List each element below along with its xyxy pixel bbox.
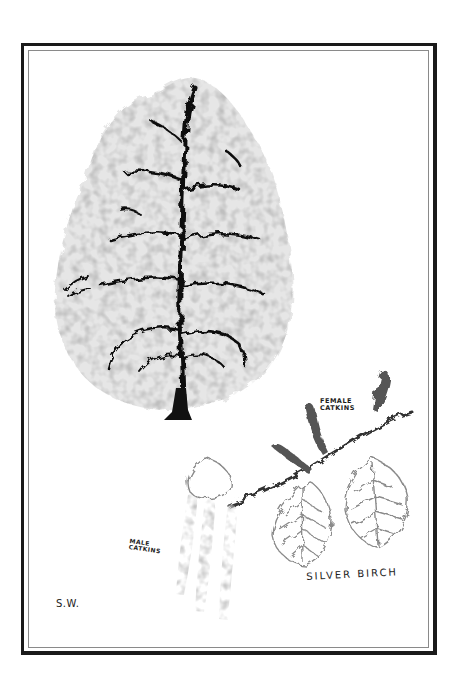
male-catkins <box>176 494 237 620</box>
tree-crown-shading <box>55 78 293 410</box>
birch-illustration <box>0 0 467 687</box>
female-catkins-label: FEMALE CATKINS <box>320 398 355 411</box>
artist-signature: S.W. <box>56 599 79 609</box>
